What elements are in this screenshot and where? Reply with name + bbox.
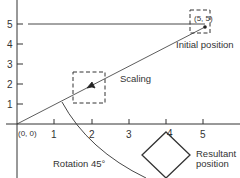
y-tick-label: 5 — [7, 19, 13, 30]
x-tick-label: 1 — [51, 129, 57, 140]
initial-point — [203, 25, 207, 29]
initial-point-label: (5, 5) — [194, 14, 213, 23]
initial-position-label: Initial position — [176, 39, 234, 50]
x-tick-label: 4 — [167, 128, 173, 139]
y-tick-label: 4 — [7, 39, 13, 50]
y-ticks — [17, 24, 23, 104]
origin-label: (0, 0) — [18, 129, 37, 138]
x-tick-label: 2 — [89, 129, 95, 140]
transformation-diagram: 1 2 3 4 5 1 2 3 4 5 (0, 0) (5, 5) Initia… — [0, 0, 240, 178]
x-tick-label: 3 — [126, 129, 132, 140]
y-tick-label: 1 — [7, 99, 13, 110]
scaled-object — [87, 82, 95, 88]
resultant-label-line2: position — [196, 158, 229, 169]
scaling-label: Scaling — [120, 73, 151, 84]
x-tick-label: 5 — [200, 129, 206, 140]
y-tick-label: 3 — [7, 59, 13, 70]
resultant-diamond — [142, 132, 190, 178]
rotation-label: Rotation 45° — [53, 158, 106, 169]
y-tick-label: 2 — [7, 79, 13, 90]
